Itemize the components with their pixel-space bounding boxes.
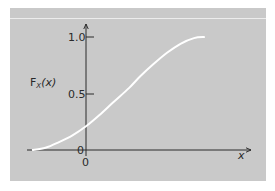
y-axis-label: FX(x) <box>30 77 56 92</box>
chart-svg <box>0 0 275 191</box>
x-axis-label: x <box>238 150 245 161</box>
y-tick-label-05: 0.5 <box>68 89 86 100</box>
cdf-curve <box>32 37 205 150</box>
y-tick-label-1: 1.0 <box>68 32 86 43</box>
y-label-arg: (x) <box>41 76 56 89</box>
x-tick-label-0: 0 <box>82 157 89 168</box>
y-tick-label-0: 0 <box>77 145 84 156</box>
